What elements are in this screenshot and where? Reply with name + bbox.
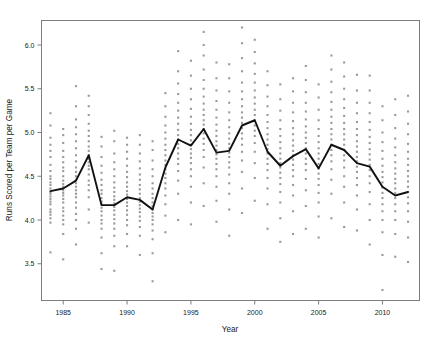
scatter-point	[241, 26, 243, 28]
scatter-point	[394, 154, 396, 156]
scatter-point	[279, 172, 281, 174]
scatter-point	[62, 142, 64, 144]
scatter-point	[266, 228, 268, 230]
scatter-point	[381, 181, 383, 183]
scatter-point	[215, 200, 217, 202]
scatter-point	[139, 144, 141, 146]
scatter-point	[49, 187, 51, 189]
scatter-point	[369, 159, 371, 161]
scatter-point	[75, 85, 77, 87]
scatter-point	[126, 171, 128, 173]
scatter-point	[113, 161, 115, 163]
scatter-point	[88, 135, 90, 137]
y-tick-label: 5.0	[25, 129, 35, 136]
scatter-point	[241, 144, 243, 146]
scatter-point	[126, 224, 128, 226]
scatter-point	[305, 152, 307, 154]
scatter-point	[113, 191, 115, 193]
scatter-point	[292, 210, 294, 212]
scatter-point	[241, 57, 243, 59]
scatter-point	[152, 212, 154, 214]
scatter-point	[254, 62, 256, 64]
scatter-point	[394, 146, 396, 148]
scatter-point	[203, 124, 205, 126]
scatter-point	[62, 166, 64, 168]
scatter-point	[190, 148, 192, 150]
scatter-point	[152, 223, 154, 225]
scatter-point	[369, 175, 371, 177]
scatter-point	[113, 206, 115, 208]
scatter-point	[292, 102, 294, 104]
scatter-point	[369, 75, 371, 77]
scatter-point	[190, 123, 192, 125]
scatter-point	[394, 138, 396, 140]
scatter-point	[394, 219, 396, 221]
x-axis: 198519901995200020052010	[55, 301, 390, 316]
scatter-point	[139, 167, 141, 169]
scatter-point	[279, 191, 281, 193]
scatter-point	[113, 270, 115, 272]
scatter-point	[62, 233, 64, 235]
scatter-point	[305, 205, 307, 207]
scatter-point	[356, 74, 358, 76]
scatter-point	[369, 142, 371, 144]
scatter-point	[407, 110, 409, 112]
scatter-point	[139, 173, 141, 175]
scatter-point	[152, 149, 154, 151]
scatter-point	[394, 197, 396, 199]
scatter-point	[241, 90, 243, 92]
scatter-point	[241, 159, 243, 161]
scatter-point	[215, 61, 217, 63]
scatter-point	[215, 158, 217, 160]
y-tick-label: 6.0	[25, 42, 35, 49]
scatter-point	[356, 89, 358, 91]
scatter-point	[152, 219, 154, 221]
scatter-point	[254, 96, 256, 98]
scatter-point	[164, 92, 166, 94]
scatter-point	[177, 129, 179, 131]
scatter-point	[203, 68, 205, 70]
scatter-point	[407, 236, 409, 238]
scatter-point	[49, 217, 51, 219]
scatter-point	[152, 168, 154, 170]
scatter-point	[266, 127, 268, 129]
scatter-point	[241, 132, 243, 134]
scatter-point	[177, 117, 179, 119]
scatter-point	[49, 214, 51, 216]
scatter-point	[394, 98, 396, 100]
scatter-point	[139, 204, 141, 206]
scatter-point	[190, 168, 192, 170]
scatter-point	[177, 50, 179, 52]
scatter-point	[318, 119, 320, 121]
scatter-point	[88, 130, 90, 132]
scatter-point	[215, 135, 217, 137]
scatter-point	[241, 111, 243, 113]
scatter-point	[139, 211, 141, 213]
scatter-point	[75, 228, 77, 230]
y-tick-label: 4.0	[25, 217, 35, 224]
scatter-point	[100, 228, 102, 230]
x-tick-label: 1995	[183, 309, 199, 316]
scatter-point	[407, 221, 409, 223]
scatter-point	[139, 152, 141, 154]
scatter-point	[381, 192, 383, 194]
scatter-point	[62, 219, 64, 221]
scatter-point	[126, 186, 128, 188]
scatter-point	[279, 110, 281, 112]
scatter-point	[356, 208, 358, 210]
scatter-point	[88, 105, 90, 107]
scatter-point	[164, 149, 166, 151]
scatter-point	[49, 208, 51, 210]
scatter-point	[88, 196, 90, 198]
scatter-point	[152, 187, 154, 189]
scatter-point	[305, 125, 307, 127]
scatter-point	[215, 89, 217, 91]
scatter-point	[330, 138, 332, 140]
scatter-point	[305, 91, 307, 93]
scatter-point	[62, 207, 64, 209]
scatter-point	[356, 145, 358, 147]
scatter-point	[164, 124, 166, 126]
scatter-point	[394, 178, 396, 180]
scatter-point	[113, 168, 115, 170]
scatter-point	[177, 102, 179, 104]
